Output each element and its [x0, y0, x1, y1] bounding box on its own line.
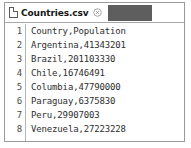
line-number: 4 — [5, 66, 22, 80]
tab-countries-csv[interactable]: Countries.csv — [5, 3, 106, 22]
tab-bar-empty-space — [152, 3, 184, 22]
tab-bar-filler — [108, 5, 152, 21]
line-number: 8 — [5, 122, 22, 136]
code-line: Venezuela,27223228 — [31, 122, 184, 136]
line-number-gutter: 1 2 3 4 5 6 7 8 — [5, 24, 26, 141]
close-circle-icon[interactable] — [93, 8, 102, 17]
code-line: Paraguay,6375830 — [31, 94, 184, 108]
code-line: Argentina,41343201 — [31, 38, 184, 52]
line-number: 6 — [5, 94, 22, 108]
line-number: 3 — [5, 52, 22, 66]
code-text-content[interactable]: Country,Population Argentina,41343201 Br… — [26, 24, 184, 141]
line-number: 7 — [5, 108, 22, 122]
tab-bar: Countries.csv — [5, 3, 184, 23]
text-editor-window: Countries.csv 1 2 3 4 5 6 7 8 Country,Po… — [4, 2, 185, 142]
code-line: Country,Population — [31, 24, 184, 38]
code-line: Peru,29907003 — [31, 108, 184, 122]
file-page-icon — [9, 7, 18, 18]
line-number: 1 — [5, 24, 22, 38]
code-line: Brazil,201103330 — [31, 52, 184, 66]
line-number: 5 — [5, 80, 22, 94]
line-number: 2 — [5, 38, 22, 52]
code-line: Columbia,47790000 — [31, 80, 184, 94]
code-area[interactable]: 1 2 3 4 5 6 7 8 Country,Population Argen… — [5, 23, 184, 141]
code-line: Chile,16746491 — [31, 66, 184, 80]
tab-label: Countries.csv — [21, 8, 89, 18]
